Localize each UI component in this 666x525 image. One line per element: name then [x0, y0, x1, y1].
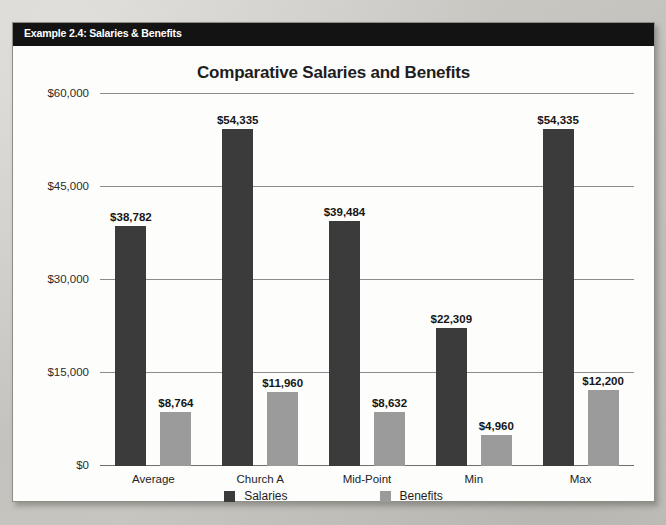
bar-value-label: $54,335 — [537, 114, 579, 126]
y-axis-tick-label: $30,000 — [47, 273, 89, 285]
bar-value-label: $39,484 — [324, 206, 366, 218]
bar-value-label: $38,782 — [110, 211, 152, 223]
bar-salaries-max[interactable]: $54,335 — [543, 129, 574, 466]
legend-item-benefits[interactable]: Benefits — [380, 489, 443, 503]
bar-benefits-mid-point[interactable]: $8,632 — [374, 412, 405, 466]
y-axis-tick-label: $60,000 — [47, 87, 89, 99]
y-axis-tick-label: $0 — [76, 459, 89, 471]
example-header-bar: Example 2.4: Salaries & Benefits — [13, 23, 654, 46]
x-axis-category-label: Average — [132, 473, 175, 485]
chart-title: Comparative Salaries and Benefits — [13, 63, 654, 83]
plot-area: $0$15,000$30,000$45,000$60,000$38,782$8,… — [100, 94, 634, 466]
legend-label: Benefits — [400, 489, 443, 503]
bar-value-label: $4,960 — [479, 420, 514, 432]
bar-salaries-min[interactable]: $22,309 — [436, 328, 467, 466]
legend-label: Salaries — [244, 489, 287, 503]
x-axis-category-label: Max — [570, 473, 592, 485]
bar-salaries-average[interactable]: $38,782 — [115, 226, 146, 466]
legend-swatch-salaries — [224, 491, 235, 502]
bar-benefits-min[interactable]: $4,960 — [481, 435, 512, 466]
bar-benefits-max[interactable]: $12,200 — [588, 390, 619, 466]
bar-salaries-mid-point[interactable]: $39,484 — [329, 221, 360, 466]
bar-value-label: $54,335 — [217, 114, 259, 126]
bar-value-label: $8,764 — [158, 397, 193, 409]
bar-group: $54,335$11,960Church A — [207, 94, 314, 466]
bar-group: $54,335$12,200Max — [527, 94, 634, 466]
legend-item-salaries[interactable]: Salaries — [224, 489, 287, 503]
bar-group: $38,782$8,764Average — [100, 94, 207, 466]
bar-benefits-church-a[interactable]: $11,960 — [267, 392, 298, 466]
bar-value-label: $8,632 — [372, 397, 407, 409]
y-axis-tick-label: $15,000 — [47, 366, 89, 378]
y-axis-tick-label: $45,000 — [47, 180, 89, 192]
chart-card: Example 2.4: Salaries & Benefits Compara… — [12, 22, 655, 502]
bar-salaries-church-a[interactable]: $54,335 — [222, 129, 253, 466]
x-axis-category-label: Min — [465, 473, 484, 485]
x-axis-category-label: Mid-Point — [343, 473, 392, 485]
bar-value-label: $22,309 — [430, 313, 472, 325]
bar-benefits-average[interactable]: $8,764 — [160, 412, 191, 466]
chart-legend: SalariesBenefits — [13, 489, 654, 503]
bar-group: $39,484$8,632Mid-Point — [314, 94, 421, 466]
example-header-label: Example 2.4: Salaries & Benefits — [24, 27, 182, 39]
bar-value-label: $11,960 — [262, 377, 303, 389]
screenshot-page: Example 2.4: Salaries & Benefits Compara… — [0, 0, 666, 525]
x-axis-category-label: Church A — [237, 473, 284, 485]
bar-group: $22,309$4,960Min — [420, 94, 527, 466]
legend-swatch-benefits — [380, 491, 391, 502]
bar-value-label: $12,200 — [582, 375, 624, 387]
